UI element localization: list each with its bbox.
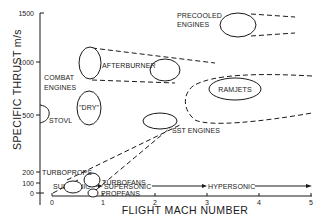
y-tick-200: 200 — [22, 169, 34, 176]
y-tick-500: 500 — [22, 112, 34, 119]
label-precooled: PRECOOLED — [177, 12, 222, 19]
label-ramjets: RAMJETS — [218, 86, 252, 93]
x-tick-5: 5 — [309, 199, 313, 206]
x-axis: SUBSONIC SUPERSONIC HYPERSONIC 0 1 2 3 4… — [50, 183, 313, 215]
label-dry: "DRY" — [79, 104, 100, 111]
precooled-ellipse — [220, 13, 256, 37]
label-turboprops: TURBOPROPS — [42, 169, 92, 176]
x-tick-4: 4 — [257, 199, 261, 206]
propfans-ellipse — [88, 189, 98, 197]
region-ramjets: RAMJETS — [185, 75, 312, 124]
x-tick-1: 1 — [101, 199, 105, 206]
label-propfans: PROPFANS — [101, 190, 140, 197]
region-dry: "DRY" — [77, 91, 101, 125]
region-afterburner: AFTERBURNER COMBAT ENGINES — [44, 47, 215, 91]
x-tick-0: 0 — [50, 199, 54, 206]
turboprops-ellipse — [64, 181, 82, 193]
label-stovl: STOVL — [49, 117, 72, 124]
combat-ellipse — [79, 47, 101, 79]
regime-hypersonic: HYPERSONIC — [208, 183, 255, 190]
region-precooled-engines: PRECOOLED ENGINES — [177, 12, 295, 37]
label-precooled-engines: ENGINES — [177, 21, 209, 28]
label-combat-engines: ENGINES — [44, 84, 76, 91]
engine-performance-diagram: 1500 1000 500 200 100 0 SPECIFIC THRUST … — [0, 0, 316, 215]
y-tick-0: 0 — [30, 190, 34, 197]
label-sst: SST ENGINES — [172, 127, 220, 134]
y-axis-title: SPECIFIC THRUST m/s — [11, 29, 23, 150]
y-tick-100: 100 — [22, 180, 34, 187]
region-stovl: STOVL — [40, 105, 72, 124]
label-afterburner: AFTERBURNER — [102, 62, 156, 69]
label-turbofans: TURBOFANS — [102, 179, 146, 186]
label-combat: COMBAT — [44, 74, 75, 81]
x-axis-title: FLIGHT MACH NUMBER — [122, 204, 249, 215]
y-axis: 1500 1000 500 200 100 0 SPECIFIC THRUST … — [11, 10, 44, 206]
y-tick-1500: 1500 — [18, 10, 34, 17]
